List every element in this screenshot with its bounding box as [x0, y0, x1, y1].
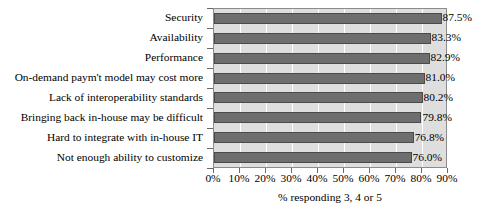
- bar: [214, 152, 412, 163]
- x-axis-title: % responding 3, 4 or 5: [213, 192, 447, 203]
- x-axis-tick-label: 60%: [359, 173, 380, 184]
- bars-layer: [214, 9, 446, 167]
- x-axis-tick-label: 20%: [255, 173, 276, 184]
- x-axis-tick-label: 40%: [307, 173, 328, 184]
- category-label: Lack of interoperability standards: [0, 88, 208, 108]
- x-axis-tick-labels: 0%10%20%30%40%50%60%70%80%90%: [213, 173, 447, 189]
- category-label: Bringing back in-house may be difficult: [0, 108, 208, 128]
- category-label: Hard to integrate with in-house IT: [0, 128, 208, 148]
- x-axis-tick-label: 0%: [205, 173, 220, 184]
- category-label: Not enough ability to customize: [0, 148, 208, 168]
- bar-chart: SecurityAvailabilityPerformanceOn-demand…: [0, 0, 484, 216]
- bar: [214, 13, 442, 24]
- x-axis-tick-label: 80%: [411, 173, 432, 184]
- x-axis-tick-label: 30%: [281, 173, 302, 184]
- category-label: Performance: [0, 48, 208, 68]
- x-axis-tick-label: 50%: [333, 173, 354, 184]
- x-axis-tick-label: 90%: [437, 173, 458, 184]
- bar-row: [214, 147, 446, 167]
- bar: [214, 33, 431, 44]
- x-axis-tick-label: 10%: [229, 173, 250, 184]
- bar-row: [214, 68, 446, 88]
- bar: [214, 132, 414, 143]
- category-label: Security: [0, 8, 208, 28]
- plot-area: [213, 8, 447, 168]
- bar-row: [214, 29, 446, 49]
- bar-row: [214, 49, 446, 69]
- bar: [214, 53, 430, 64]
- category-label: Availability: [0, 28, 208, 48]
- bar: [214, 92, 423, 103]
- gridline: [448, 9, 449, 167]
- bar: [214, 112, 421, 123]
- bar-row: [214, 9, 446, 29]
- bar: [214, 73, 425, 84]
- category-axis: SecurityAvailabilityPerformanceOn-demand…: [0, 8, 208, 168]
- bar-row: [214, 88, 446, 108]
- category-label: On-demand paym't model may cost more: [0, 68, 208, 88]
- bar-row: [214, 108, 446, 128]
- bar-row: [214, 128, 446, 148]
- x-axis-tick-label: 70%: [385, 173, 406, 184]
